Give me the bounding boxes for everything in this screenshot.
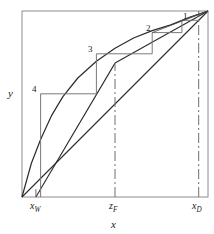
rectifying-operating-line bbox=[115, 11, 208, 63]
mccabe-thiele-figure: y x xW zF xD 1 2 3 4 bbox=[0, 0, 214, 234]
stripping-operating-line bbox=[36, 63, 115, 197]
bottoms-composition-tick-label: xW bbox=[30, 201, 40, 214]
stage-label-4: 4 bbox=[32, 85, 37, 94]
stage-2-tie-line bbox=[152, 11, 208, 33]
distillate-composition-tick-label: xD bbox=[192, 201, 202, 214]
x-axis-label: x bbox=[111, 219, 116, 230]
feed-composition-tick-label: zF bbox=[109, 201, 117, 214]
stage-step-2 bbox=[152, 33, 182, 54]
stage-label-2: 2 bbox=[146, 24, 151, 33]
stage-label-1: 1 bbox=[183, 12, 188, 21]
tick-sub-w: W bbox=[34, 206, 40, 214]
stage-steps bbox=[41, 20, 199, 197]
tick-sub-d: D bbox=[196, 206, 201, 214]
stage-label-3: 3 bbox=[88, 45, 93, 54]
tick-sub-f: F bbox=[113, 206, 117, 214]
diagram-canvas bbox=[0, 0, 214, 234]
y-axis-label: y bbox=[8, 88, 13, 99]
stage-step-3 bbox=[96, 54, 152, 94]
